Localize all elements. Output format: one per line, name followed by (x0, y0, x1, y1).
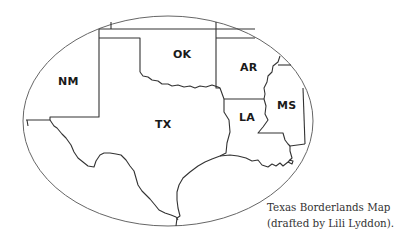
red-river-border (140, 72, 220, 88)
state-label-nm: NM (58, 75, 79, 88)
rio-grande-border (27, 120, 178, 220)
state-label-ok: OK (173, 48, 191, 61)
ar-east-border (264, 56, 280, 99)
tx-coast (176, 156, 220, 226)
state-label-ms: MS (277, 99, 296, 112)
tx-la-border (220, 99, 230, 156)
state-label-ar: AR (240, 61, 257, 74)
state-label-la: LA (239, 111, 255, 124)
map-caption: Texas Borderlands Map (drafted by Lili L… (267, 199, 394, 231)
ms-east-border (303, 88, 305, 144)
state-label-tx: TX (155, 118, 171, 131)
caption-credit: (drafted by Lili Lyddon). (267, 215, 394, 231)
tx-panhandle-north (99, 38, 140, 72)
gulf-coast (220, 146, 293, 167)
caption-title: Texas Borderlands Map (267, 199, 394, 215)
ar-ok-border (216, 22, 224, 99)
